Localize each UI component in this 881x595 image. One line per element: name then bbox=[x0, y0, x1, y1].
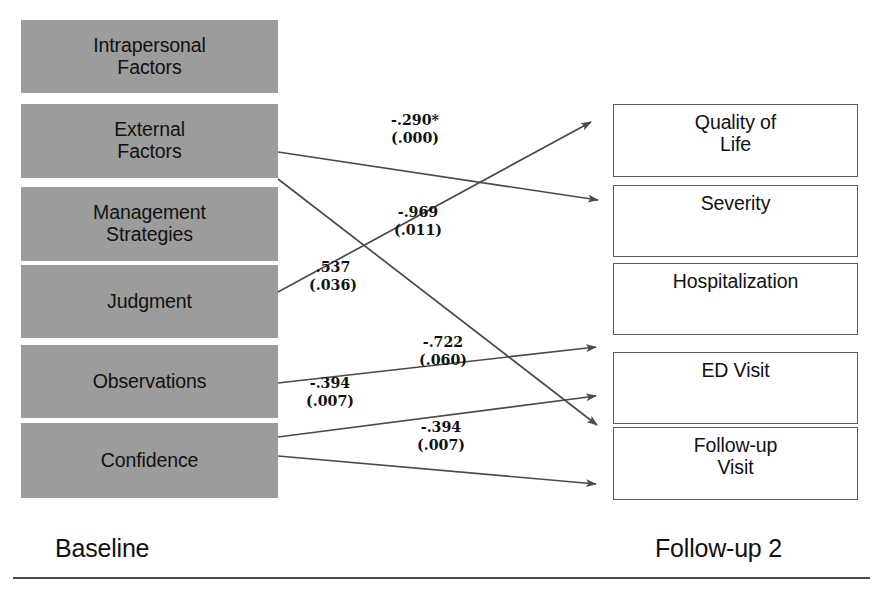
path-label-judgment-to-quality-of-life: .537 (.036) bbox=[296, 258, 370, 294]
p-value: (.000) bbox=[378, 129, 452, 147]
coefficient-value: -.290* bbox=[378, 111, 452, 129]
path-diagram: Intrapersonal Factors External Factors M… bbox=[0, 0, 881, 595]
arrow-external-factors-to-severity[interactable] bbox=[278, 152, 598, 200]
p-value: (.007) bbox=[404, 436, 478, 454]
coefficient-value: -.394 bbox=[404, 418, 478, 436]
arrow-confidence-to-follow-up-visit[interactable] bbox=[278, 456, 596, 484]
column-caption-baseline: Baseline bbox=[55, 534, 149, 563]
coefficient-value: -.969 bbox=[381, 203, 455, 221]
coefficient-value: .537 bbox=[296, 258, 370, 276]
coefficient-value: -.722 bbox=[406, 333, 480, 351]
path-label-external-factors-to-severity: -.290* (.000) bbox=[378, 111, 452, 147]
path-label-confidence-to-follow-up-visit: -.394 (.007) bbox=[404, 418, 478, 454]
coefficient-value: -.394 bbox=[293, 374, 367, 392]
path-label-confidence-to-ed-visit-upper: -.394 (.007) bbox=[293, 374, 367, 410]
p-value: (.011) bbox=[381, 221, 455, 239]
bottom-rule bbox=[13, 577, 870, 579]
p-value: (.007) bbox=[293, 392, 367, 410]
path-label-observations-to-ed-visit: -.722 (.060) bbox=[406, 333, 480, 369]
p-value: (.036) bbox=[296, 276, 370, 294]
path-arrows-layer bbox=[0, 0, 881, 595]
p-value: (.060) bbox=[406, 351, 480, 369]
column-caption-follow-up-2: Follow-up 2 bbox=[655, 534, 782, 563]
path-label-external-factors-to-follow-up-visit: -.969 (.011) bbox=[381, 203, 455, 239]
